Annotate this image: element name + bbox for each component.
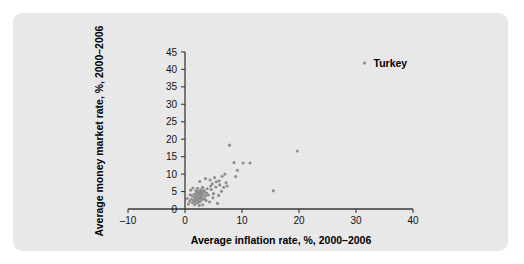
data-point (211, 196, 214, 199)
data-points-layer (186, 62, 366, 207)
figure-container: –10010203040051015202530354045 Turkey Av… (0, 0, 524, 264)
data-point (223, 173, 226, 176)
data-point (213, 176, 216, 179)
axis-labels-layer: –10010203040051015202530354045 (120, 47, 419, 226)
data-point (189, 189, 192, 192)
data-point (207, 193, 210, 196)
data-point (214, 185, 217, 188)
y-tick-label: 0 (171, 204, 177, 215)
data-point (186, 197, 189, 200)
y-tick-label: 30 (166, 99, 178, 110)
data-point (220, 190, 223, 193)
x-tick-label: 40 (407, 215, 419, 226)
y-tick-label: 40 (166, 64, 178, 75)
y-tick-label: 15 (166, 151, 178, 162)
data-point (206, 187, 209, 190)
data-point (191, 187, 194, 190)
y-tick-label: 35 (166, 81, 178, 92)
data-point (189, 193, 192, 196)
data-point (363, 62, 366, 65)
data-point (224, 181, 227, 184)
data-point (205, 199, 208, 202)
annotations-layer: Turkey (374, 57, 408, 69)
data-point (296, 150, 299, 153)
data-point (188, 200, 191, 203)
data-point (228, 144, 231, 147)
data-point (226, 184, 229, 187)
data-point (218, 183, 221, 186)
data-point (198, 204, 201, 207)
data-point (209, 184, 212, 187)
scatter-plot: –10010203040051015202530354045 Turkey Av… (0, 0, 524, 264)
x-tick-label: –10 (120, 215, 137, 226)
x-tick-label: 0 (182, 215, 188, 226)
data-point (204, 177, 207, 180)
data-point (222, 186, 225, 189)
data-point (208, 200, 211, 203)
y-tick-label: 25 (166, 116, 178, 127)
data-point (232, 161, 235, 164)
data-point (242, 161, 245, 164)
data-point (216, 202, 219, 205)
data-point (248, 161, 251, 164)
data-point (210, 188, 213, 191)
data-point (221, 175, 224, 178)
data-point (193, 203, 196, 206)
y-tick-label: 10 (166, 169, 178, 180)
data-point (272, 189, 275, 192)
data-point (217, 194, 220, 197)
y-axis-title: Average money market rate, %, 2000–2006 (93, 25, 105, 236)
annotation-label: Turkey (374, 57, 408, 69)
data-point (209, 178, 212, 181)
data-point (234, 175, 237, 178)
data-point (201, 203, 204, 206)
x-tick-label: 10 (236, 215, 248, 226)
x-tick-label: 20 (293, 215, 305, 226)
y-tick-label: 20 (166, 134, 178, 145)
data-point (187, 203, 190, 206)
data-point (218, 179, 221, 182)
y-tick-label: 5 (171, 186, 177, 197)
data-point (236, 169, 239, 172)
y-tick-label: 45 (166, 47, 178, 58)
data-point (198, 180, 201, 183)
x-axis-title: Average inflation rate, %, 2000–2006 (191, 234, 372, 246)
data-point (212, 192, 215, 195)
data-point (215, 180, 218, 183)
x-tick-label: 30 (350, 215, 362, 226)
data-point (204, 195, 207, 198)
